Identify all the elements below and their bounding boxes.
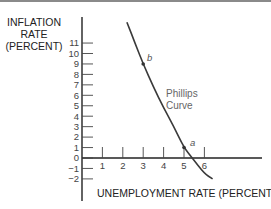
point-a-label: a xyxy=(190,137,195,148)
y-tick-label: 11 xyxy=(69,37,79,48)
curve-label-line2: Curve xyxy=(166,100,198,112)
x-tick-label: 3 xyxy=(141,160,146,171)
point-b-marker xyxy=(141,62,145,66)
y-tick-label: −2 xyxy=(68,173,79,184)
y-tick-label: 9 xyxy=(74,58,79,69)
curve-label-line1: Phillips xyxy=(166,88,198,100)
x-tick-label: 1 xyxy=(100,160,105,171)
y-tick-label: 1 xyxy=(74,142,79,153)
y-tick-label: 8 xyxy=(74,69,79,80)
y-tick-label: −1 xyxy=(68,163,79,174)
y-tick-label: 6 xyxy=(74,90,79,101)
y-tick-label: 5 xyxy=(74,100,79,111)
y-tick-label: 2 xyxy=(74,131,79,142)
x-axis-label: UNEMPLOYMENT RATE (PERCENT) xyxy=(97,187,271,199)
x-tick-label: 6 xyxy=(202,160,207,171)
phillips-curve-label: Phillips Curve xyxy=(166,88,198,112)
y-tick-label: 0 xyxy=(74,152,79,163)
point-a-marker xyxy=(182,146,186,150)
x-tick-label: 4 xyxy=(161,160,166,171)
y-tick-label: 7 xyxy=(74,79,79,90)
y-tick-label: 3 xyxy=(74,121,79,132)
x-tick-label: 2 xyxy=(120,160,125,171)
point-b-label: b xyxy=(147,52,152,63)
x-tick-label: 5 xyxy=(181,160,186,171)
chart-plot-area: 11109876543210−1−2123456 xyxy=(0,0,271,209)
y-tick-label: 10 xyxy=(68,48,79,59)
y-tick-label: 4 xyxy=(74,111,79,122)
